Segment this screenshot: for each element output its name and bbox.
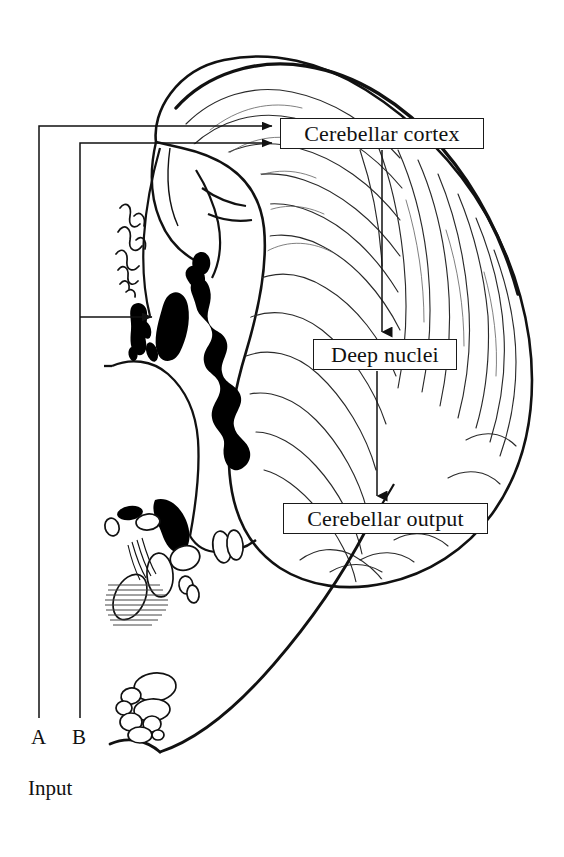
fiber-squiggles [116, 204, 145, 297]
input-caption: Input [28, 776, 72, 801]
label-deep-nuclei: Deep nuclei [313, 339, 457, 370]
label-cerebellar-output: Cerebellar output [283, 503, 488, 534]
label-cerebellar-cortex: Cerebellar cortex [280, 118, 484, 149]
input-label-a: A [31, 725, 46, 750]
input-label-b: B [72, 725, 86, 750]
input-pathway-b [80, 143, 272, 718]
deep-nuclei-shapes [127, 252, 250, 470]
label-cerebellar-cortex-text: Cerebellar cortex [304, 121, 459, 147]
label-cerebellar-output-text: Cerebellar output [307, 506, 464, 532]
input-pathway-a [39, 126, 272, 718]
figure-canvas: Cerebellar cortex Deep nuclei Cerebellar… [0, 0, 564, 857]
label-deep-nuclei-text: Deep nuclei [331, 342, 439, 368]
brainstem-nuclei [103, 499, 245, 743]
